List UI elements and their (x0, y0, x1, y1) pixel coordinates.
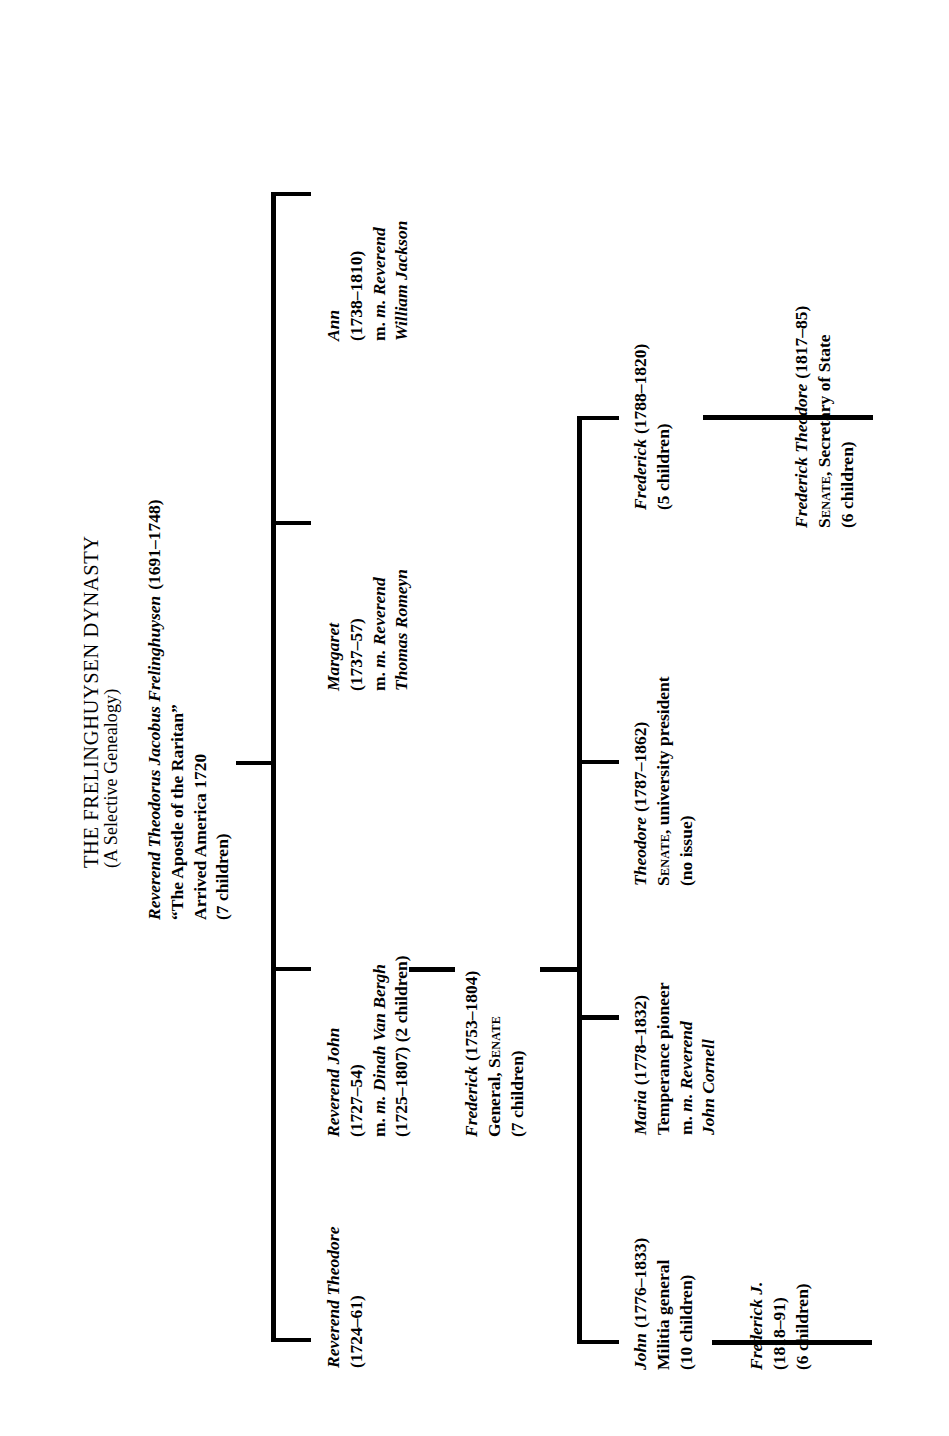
person-root-epithet: “The Apostle of the Raritan” (166, 499, 189, 920)
connector-gen2-stub-ann (271, 192, 311, 196)
person-margaret-spouse-line2: Thomas Romeyn (390, 569, 413, 691)
person-root-children: (7 children) (211, 499, 234, 920)
connector-gen2-stub-john (271, 967, 311, 971)
person-frederick-j-dates: (1818–91) (768, 1282, 791, 1370)
person-margaret-dates: (1737–57) (345, 569, 368, 691)
person-frederick-j-name: Frederick J. (745, 1282, 768, 1370)
person-root-arrival: Arrived America 1720 (189, 499, 212, 920)
person-frederick-j: Frederick J. (1818–91) (6 children) (745, 1282, 813, 1370)
person-ann-name: Ann (322, 221, 345, 341)
person-maria-spouse-line2: John Cornell (697, 983, 720, 1135)
person-maria: Maria(1778–1832) Temperance pioneer m. m… (629, 983, 720, 1135)
connector-gen4-stub-theodore (577, 760, 619, 764)
person-frederick-theodore-children: (6 children) (836, 306, 859, 528)
person-root-dates: (1691–1748) (144, 499, 164, 595)
person-margaret: Margaret (1737–57) m. m. Reverend Thomas… (322, 569, 413, 691)
connector-gen2-stub-margaret (271, 521, 311, 525)
person-ann-spouse-line2: William Jackson (390, 221, 413, 341)
connector-root-stem (236, 761, 274, 765)
person-ann-dates: (1738–1810) (345, 221, 368, 341)
person-reverend-theodore-name: Reverend Theodore (322, 1227, 345, 1368)
person-margaret-spouse-line1: m. m. Reverend (368, 569, 391, 691)
person-frederick-1788-children: (5 children) (652, 344, 675, 510)
person-frederick-1753-role: General, Senate (483, 971, 506, 1137)
person-maria-spouse-line1: m. m. Reverend (675, 983, 698, 1135)
person-reverend-john-spouse-dates: (1725–1807) (2 children) (390, 956, 413, 1137)
person-maria-role: Temperance pioneer (652, 983, 675, 1135)
person-theodore-1787-role: Senate, university president (652, 676, 675, 886)
person-frederick-1753-nameline: Frederick(1753–1804) (460, 971, 483, 1137)
person-frederick-theodore-nameline: Frederick Theodore(1817–85) (790, 306, 813, 528)
connector-john-to-frederick (409, 967, 455, 972)
person-theodore-1787-children: (no issue) (675, 676, 698, 886)
person-maria-nameline: Maria(1778–1832) (629, 983, 652, 1135)
person-theodore-1787: Theodore(1787–1862) Senate, university p… (629, 676, 697, 886)
connector-gen4-stub-john (577, 1340, 619, 1344)
connector-gen2-stub-theodore (271, 1338, 311, 1342)
person-reverend-theodore: Reverend Theodore (1724–61) (322, 1227, 368, 1368)
chart-subtitle: (A Selective Genealogy) (100, 689, 123, 868)
person-reverend-john: Reverend John (1727–54) m. m. Dinah Van … (322, 956, 413, 1137)
person-frederick-1788: Frederick(1788–1820) (5 children) (629, 344, 675, 510)
person-theodore-1787-nameline: Theodore(1787–1862) (629, 676, 652, 886)
person-frederick-j-children: (6 children) (791, 1282, 814, 1370)
connector-gen4-stub-maria (577, 1015, 619, 1020)
connector-gen2-spine (271, 192, 276, 1342)
person-margaret-name: Margaret (322, 569, 345, 691)
person-ann: Ann (1738–1810) m. m. Reverend William J… (322, 221, 413, 341)
person-frederick-theodore-role: Senate, Secretary of State (813, 306, 836, 528)
person-root-nameline: Reverend Theodorus Jacobus Frelinghuysen… (143, 499, 166, 920)
person-john-1776-role: Militia general (652, 1238, 675, 1370)
person-root-name: Reverend Theodorus Jacobus Frelinghuysen (144, 596, 164, 920)
person-john-1776-children: (10 children) (675, 1238, 698, 1370)
person-reverend-john-name: Reverend John (322, 956, 345, 1137)
connector-frederick-stem (540, 967, 580, 972)
person-frederick-1753: Frederick(1753–1804) General, Senate (7 … (460, 971, 528, 1137)
genealogy-chart: THE FRELINGHUYSEN DYNASTY (A Selective G… (0, 0, 949, 1436)
person-root: Reverend Theodorus Jacobus Frelinghuysen… (143, 499, 234, 920)
person-john-1776: John(1776–1833) Militia general (10 chil… (629, 1238, 697, 1370)
person-reverend-john-dates: (1727–54) (345, 956, 368, 1137)
person-frederick-theodore: Frederick Theodore(1817–85) Senate, Secr… (790, 306, 858, 528)
person-ann-spouse-line1: m. m. Reverend (368, 221, 391, 341)
person-john-1776-nameline: John(1776–1833) (629, 1238, 652, 1370)
person-reverend-john-spouse: m. m. Dinah Van Bergh (368, 956, 391, 1137)
connector-gen4-stub-frederick (577, 416, 619, 420)
person-frederick-1788-nameline: Frederick(1788–1820) (629, 344, 652, 510)
person-reverend-theodore-dates: (1724–61) (345, 1227, 368, 1368)
person-frederick-1753-children: (7 children) (506, 971, 529, 1137)
connector-gen4-spine (577, 416, 582, 1344)
